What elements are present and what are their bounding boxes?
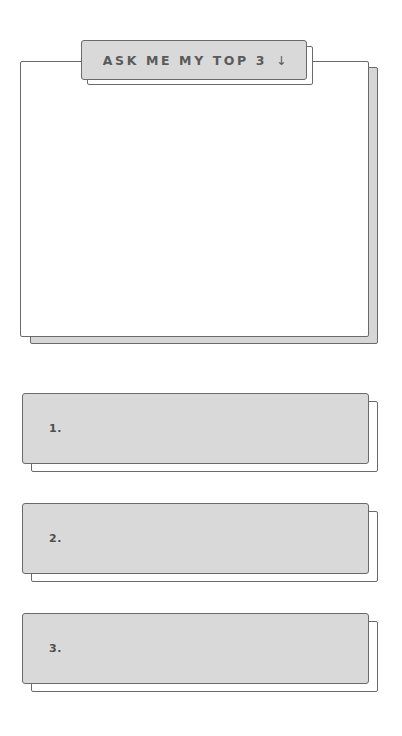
list-item-2[interactable]: 2. bbox=[22, 503, 369, 574]
item-number: 3. bbox=[49, 642, 62, 655]
title-tab: ASK ME MY TOP 3 ↓ bbox=[81, 40, 307, 80]
list-item-1[interactable]: 1. bbox=[22, 393, 369, 464]
title-text: ASK ME MY TOP 3 bbox=[103, 53, 267, 68]
item-number: 2. bbox=[49, 532, 62, 545]
list-item-3[interactable]: 3. bbox=[22, 613, 369, 684]
title-label: ASK ME MY TOP 3 ↓ bbox=[99, 53, 289, 68]
item-number: 1. bbox=[49, 422, 62, 435]
main-answer-panel[interactable] bbox=[20, 61, 369, 337]
arrow-down-icon: ↓ bbox=[276, 53, 289, 68]
